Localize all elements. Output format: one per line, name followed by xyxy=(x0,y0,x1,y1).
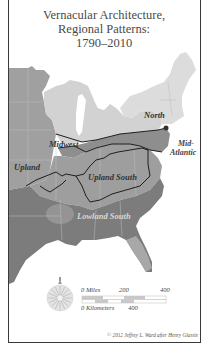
scale-miles-mid: 200 xyxy=(119,286,129,293)
label-midwest: Midwest xyxy=(49,139,78,149)
scale-bar xyxy=(82,296,166,303)
scale-km-max: 400 xyxy=(128,304,138,311)
map-credit: © 2012 Jeffrey L. Ward after Henry Glass… xyxy=(107,332,198,338)
nyc-marker xyxy=(164,126,169,131)
label-upland: Upland xyxy=(14,162,40,172)
label-lowland-south: Lowland South xyxy=(77,211,131,221)
label-mid-atlantic-1: Mid- xyxy=(178,139,194,148)
compass-rose-icon xyxy=(47,277,73,311)
scale-km-label: 0 Kilometers xyxy=(81,304,114,311)
label-north: North xyxy=(144,110,165,120)
label-upland-south: Upland South xyxy=(88,172,137,182)
label-mid-atlantic-2: Atlantic xyxy=(170,148,196,157)
scale-miles-max: 400 xyxy=(160,286,170,293)
scale-miles-label: 0 Miles xyxy=(81,286,100,293)
